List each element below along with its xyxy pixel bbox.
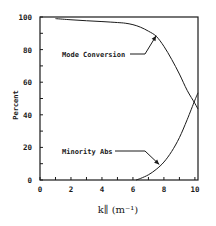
series-line-minority-abs [136,93,198,180]
x-tick-label: 6 [131,185,136,194]
x-tick-label: 8 [162,185,167,194]
y-tick-label: 40 [23,111,33,120]
ticks: 0246810020406080100 [18,13,199,194]
y-tick-label: 0 [27,176,32,185]
x-tick-label: 4 [100,185,105,194]
annotations: Mode Conversion Minority Abs [62,36,159,165]
x-tick-label: 10 [190,185,200,194]
y-axis-label: Percent [12,90,20,120]
y-tick-label: 80 [23,46,33,55]
chart: 0246810020406080100 Mode Conversion Mino… [0,0,216,226]
x-tick-label: 0 [38,185,43,194]
series-line-mode-conversion [55,19,198,109]
y-tick-label: 100 [18,13,32,22]
x-axis-label: k∥ (m⁻¹) [98,204,139,215]
y-tick-label: 60 [23,78,33,87]
annotation-mode-conversion: Mode Conversion [62,51,125,59]
y-tick-label: 20 [23,143,33,152]
x-tick-label: 2 [69,185,74,194]
minority-abs-leader [115,151,159,165]
annotation-minority-abs: Minority Abs [62,148,113,156]
